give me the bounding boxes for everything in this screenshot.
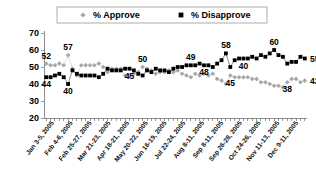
approval-rating-chart: % Approve% Disapprove 203040506070 52575… <box>0 0 316 193</box>
data-point <box>228 65 232 69</box>
data-point-label: 60 <box>269 37 279 47</box>
data-point <box>171 67 175 71</box>
data-point <box>176 65 180 69</box>
data-point <box>277 53 281 57</box>
data-point <box>71 69 75 73</box>
data-point <box>101 72 105 76</box>
data-point <box>145 69 149 73</box>
legend-marker-square-icon <box>179 13 184 18</box>
data-point <box>233 58 237 62</box>
data-point <box>97 75 101 79</box>
data-point <box>250 55 254 59</box>
data-point-label: 50 <box>138 54 148 64</box>
data-point-label: 38 <box>283 84 293 94</box>
y-axis-tick-label: 50 <box>29 62 39 72</box>
data-point <box>294 60 298 64</box>
data-point-label: 48 <box>199 67 209 77</box>
data-point <box>141 74 145 78</box>
data-point <box>189 63 193 67</box>
data-point <box>193 63 197 67</box>
data-point <box>114 69 118 73</box>
data-point <box>119 69 123 73</box>
data-point-label: 44 <box>41 79 51 89</box>
data-point <box>281 55 285 59</box>
y-axis-tick-label: 30 <box>29 96 39 106</box>
y-axis-tick-label: 20 <box>29 113 39 123</box>
data-point <box>93 74 97 78</box>
data-point-label: 40 <box>239 61 249 71</box>
data-point <box>53 74 57 78</box>
data-point <box>75 72 79 76</box>
data-point-label: 49 <box>186 52 196 62</box>
data-point <box>136 72 140 76</box>
data-point <box>299 55 303 59</box>
data-point-label: 55 <box>310 54 316 64</box>
data-point <box>259 53 263 57</box>
data-point <box>255 57 259 61</box>
data-point <box>110 69 114 73</box>
data-point <box>88 74 92 78</box>
data-point <box>268 52 272 56</box>
data-point <box>290 60 294 64</box>
data-point <box>215 62 219 66</box>
y-axis-tick-label: 40 <box>29 79 39 89</box>
data-point-label: 45 <box>125 71 135 81</box>
data-point <box>167 70 171 74</box>
data-point <box>272 48 276 52</box>
data-point <box>211 65 215 69</box>
data-point <box>198 62 202 66</box>
y-axis-tick-label: 70 <box>29 28 39 38</box>
data-point <box>84 74 88 78</box>
data-point <box>263 55 267 59</box>
legend-label: % Disapprove <box>191 10 251 20</box>
data-point-label: 40 <box>63 86 73 96</box>
data-point <box>158 69 162 73</box>
data-point <box>57 72 61 76</box>
data-point <box>185 63 189 67</box>
data-point <box>79 74 83 78</box>
data-point <box>303 57 307 61</box>
chart-legend: % Approve% Disapprove <box>57 7 267 23</box>
data-point <box>154 67 158 71</box>
chart-background <box>0 0 316 193</box>
data-point <box>106 67 110 71</box>
data-point <box>180 65 184 69</box>
y-axis-tick-label: 60 <box>29 45 39 55</box>
legend-label: % Approve <box>93 10 140 20</box>
data-point <box>220 58 224 62</box>
data-point-label: 58 <box>221 40 231 50</box>
data-point <box>62 75 66 79</box>
data-point <box>163 69 167 73</box>
data-point-label: 57 <box>63 42 73 52</box>
data-point-label: 45 <box>226 78 236 88</box>
data-point <box>285 62 289 66</box>
data-point <box>224 52 228 56</box>
data-point-label: 42 <box>310 76 316 86</box>
data-point-label: 52 <box>41 51 51 61</box>
data-point <box>149 70 153 74</box>
